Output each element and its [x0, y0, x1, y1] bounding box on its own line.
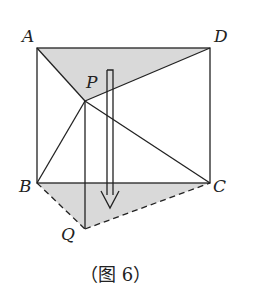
label-q: Q: [61, 226, 75, 243]
geometry-figure: A D P B C Q （图 6）: [0, 0, 253, 294]
segment-pb: [37, 101, 85, 183]
label-c: C: [213, 178, 226, 195]
label-b: B: [19, 178, 32, 195]
segment-pc: [85, 101, 210, 183]
label-a: A: [22, 28, 34, 45]
shaded-triangle-bqc: [37, 183, 210, 229]
label-d: D: [214, 28, 228, 45]
label-p: P: [86, 74, 97, 91]
shaded-triangle-apd: [37, 48, 210, 101]
figure-caption: （图 6）: [80, 266, 151, 284]
